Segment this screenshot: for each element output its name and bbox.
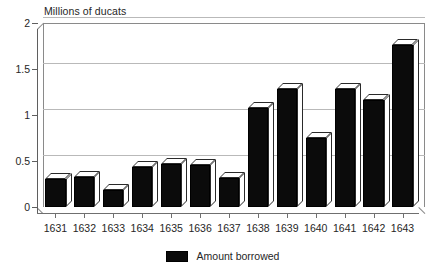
y-axis-tick-label: 0.5 (15, 155, 30, 167)
bar (277, 89, 297, 207)
bar-side-face (413, 39, 419, 207)
x-axis-tick-mark (316, 213, 317, 218)
x-axis-tick-label: 1642 (362, 222, 385, 234)
x-axis-tick-mark (171, 213, 172, 218)
x-axis-tick-label: 1641 (333, 222, 356, 234)
x-axis-tick-label: 1638 (246, 222, 269, 234)
x-axis-tick-mark (113, 213, 114, 218)
bar-front-face (161, 164, 181, 207)
bar (161, 164, 181, 207)
y-axis-title: Millions of ducats (44, 5, 126, 17)
legend-swatch-icon (166, 251, 188, 262)
x-axis-tick-mark (229, 213, 230, 218)
bar-front-face (392, 45, 412, 207)
x-axis-tick-label: 1633 (102, 222, 125, 234)
x-axis-tick-label: 1636 (188, 222, 211, 234)
y-axis-tick-label: 2 (24, 17, 30, 29)
bar-front-face (190, 165, 210, 207)
y-axis-tick-label: 0 (24, 201, 30, 213)
x-axis-tick-label: 1640 (304, 222, 327, 234)
x-axis-tick-mark (374, 213, 375, 218)
x-axis-tick-label: 1639 (275, 222, 298, 234)
bar (45, 179, 65, 207)
bar-front-face (74, 177, 94, 207)
bar-front-face (248, 108, 268, 207)
bar-side-face (94, 171, 100, 207)
x-axis-tick-label: 1643 (391, 222, 414, 234)
bar-side-face (152, 161, 158, 207)
legend-item-amount-borrowed: Amount borrowed (166, 250, 280, 262)
x-axis-tick-mark (287, 213, 288, 218)
x-axis-tick-mark (142, 213, 143, 218)
bar-side-face (297, 83, 303, 207)
bar (335, 89, 355, 207)
x-axis-tick-label: 1632 (73, 222, 96, 234)
bar-side-face (326, 132, 332, 207)
y-axis-line (37, 29, 38, 213)
bar-side-face (355, 83, 361, 207)
bar-front-face (335, 89, 355, 207)
floor-right-depth-edge (418, 207, 425, 214)
gridline (43, 17, 425, 18)
gridline (43, 63, 425, 64)
x-axis-tick-label: 1634 (131, 222, 154, 234)
plot-area: 00.511.52 163116321633163416351636163716… (37, 23, 425, 213)
x-axis-tick-label: 1631 (44, 222, 67, 234)
bar (306, 138, 326, 207)
bar-front-face (132, 167, 152, 207)
x-axis-tick-mark (55, 213, 56, 218)
bar (132, 167, 152, 207)
bar (219, 178, 239, 207)
bar (248, 108, 268, 207)
bar-front-face (306, 138, 326, 207)
x-axis-tick-mark (84, 213, 85, 218)
bar (74, 177, 94, 207)
legend-item-label: Amount borrowed (197, 250, 280, 262)
chart-legend: Amount borrowed (0, 250, 445, 262)
bar (392, 45, 412, 207)
bar-front-face (219, 178, 239, 207)
bar (363, 100, 383, 207)
x-axis-line (37, 213, 419, 214)
bar-front-face (277, 89, 297, 207)
x-axis-tick-label: 1637 (217, 222, 240, 234)
bar (190, 165, 210, 207)
x-axis-tick-mark (258, 213, 259, 218)
y-axis-back-edge (43, 23, 44, 207)
bar-side-face (181, 158, 187, 207)
y-axis-tick-mark (32, 23, 38, 24)
x-axis-tick-mark (403, 213, 404, 218)
bar-front-face (45, 179, 65, 207)
bar-side-face (210, 159, 216, 207)
bar-chart-figure: Millions of ducats 00.511.52 16311632163… (0, 0, 445, 276)
x-axis-tick-mark (345, 213, 346, 218)
bar-front-face (363, 100, 383, 207)
y-axis-tick-label: 1 (24, 109, 30, 121)
bar-side-face (384, 94, 390, 207)
x-axis-tick-label: 1635 (159, 222, 182, 234)
bar-front-face (103, 190, 123, 207)
bar-side-face (268, 102, 274, 207)
y-axis-tick-label: 1.5 (15, 63, 30, 75)
bar (103, 190, 123, 207)
x-axis-tick-mark (200, 213, 201, 218)
